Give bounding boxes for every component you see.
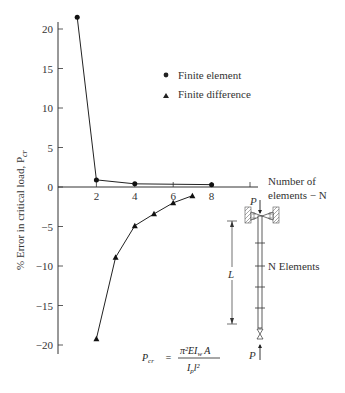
legend-item-finite-difference: Finite difference <box>178 88 251 100</box>
n-elements-label: N Elements <box>268 260 320 272</box>
data-point-triangle <box>113 254 119 260</box>
series-line-triangle <box>96 196 192 339</box>
y-tick-label: −15 <box>36 300 54 312</box>
series-line-circle <box>77 17 211 184</box>
y-tick-label: 0 <box>48 181 54 193</box>
x-ticks: 2468 <box>94 182 250 202</box>
y-tick-label: 15 <box>42 63 54 75</box>
y-ticks: 20151050−5−10−15−20 <box>36 23 63 351</box>
y-tick-label: −5 <box>41 221 53 233</box>
arrow-up-icon <box>258 344 262 348</box>
y-tick-label: 5 <box>48 142 54 154</box>
x-axis-title-line1: Number of <box>268 175 316 187</box>
right-wall-support <box>262 207 279 223</box>
series-group <box>75 15 214 342</box>
top-load-label: P <box>249 195 257 207</box>
bottom-pin-support <box>257 329 263 339</box>
x-tick-label: 6 <box>170 190 176 202</box>
data-point-circle <box>94 177 99 182</box>
length-label: L <box>227 268 234 280</box>
data-point-circle <box>75 15 80 20</box>
data-point-triangle <box>189 193 195 199</box>
x-axis-title-line2: elements − N <box>268 189 327 201</box>
formula-lhs: Pcr <box>141 352 154 365</box>
legend: Finite element Finite difference <box>163 69 251 100</box>
x-tick-label: 8 <box>209 190 215 202</box>
legend-circle-marker-icon <box>164 73 169 78</box>
y-tick-label: −20 <box>36 339 54 351</box>
data-point-circle <box>132 181 137 186</box>
length-dimension: L <box>226 221 238 324</box>
y-tick-label: 10 <box>42 102 54 114</box>
data-point-triangle <box>93 336 99 342</box>
x-tick-label: 2 <box>94 190 100 202</box>
chart-canvas: 20151050−5−10−15−20 2468 % Error in crit… <box>0 0 345 393</box>
arrow-down-icon <box>258 210 262 214</box>
formula-denominator: Ipl² <box>186 362 201 375</box>
x-tick-label: 4 <box>132 190 138 202</box>
data-point-triangle <box>151 211 157 217</box>
formula-equals: = <box>165 352 172 363</box>
critical-load-formula: Pcr = π²EIwA Ipl² <box>141 345 220 375</box>
bottom-load-label: P <box>248 349 256 361</box>
column-member <box>258 216 262 328</box>
y-axis-title: % Error in critical load, Pcr <box>14 149 29 270</box>
data-point-circle <box>209 182 214 187</box>
y-tick-label: 20 <box>42 23 54 35</box>
data-point-triangle <box>132 223 138 229</box>
legend-triangle-marker-icon <box>163 93 169 98</box>
y-tick-label: −10 <box>36 260 54 272</box>
formula-numerator: π²EIwA <box>180 345 211 358</box>
column-diagram: P N Elements P L <box>226 195 320 361</box>
legend-item-finite-element: Finite element <box>178 69 241 81</box>
